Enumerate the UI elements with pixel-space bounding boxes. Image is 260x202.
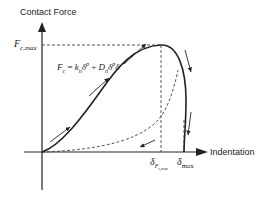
- force-indentation-diagram: [0, 0, 260, 202]
- eq-sign: =: [65, 62, 75, 72]
- y-axis-arrow-icon: [38, 22, 46, 32]
- loading-arrow-icon: [124, 44, 146, 64]
- x-axis: [24, 148, 208, 156]
- eq-plus: +: [89, 62, 99, 72]
- x-axis-label: Indentation: [210, 147, 255, 157]
- x-axis-arrow-icon: [196, 148, 208, 156]
- delta-max-tick-label: δmax: [177, 156, 194, 170]
- unloading-dashed-curve: [42, 70, 178, 152]
- y-axis: [38, 22, 46, 190]
- delta-max-sub: max: [182, 162, 194, 170]
- fcmax-sub: c,max: [20, 44, 37, 52]
- y-axis-label: Contact Force: [20, 7, 77, 17]
- unloading-arrow-icon: [188, 112, 191, 135]
- delta-fcmax-subsub: c,max: [158, 166, 167, 171]
- unloading-arrow-icon: [185, 50, 191, 72]
- eq-deltadot: δ̇: [115, 62, 119, 72]
- fcmax-tick-label: Fc,max: [14, 38, 37, 52]
- equation: Fc = knδp + Dnδpδ̇: [57, 61, 119, 74]
- direction-arrows: [50, 44, 191, 147]
- delta-fcmax-tick-label: δFc,max: [150, 156, 168, 171]
- return-arrow-icon: [140, 140, 155, 147]
